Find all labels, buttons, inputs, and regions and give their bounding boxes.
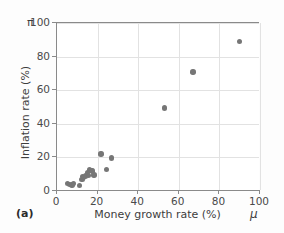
scatter-point (237, 39, 242, 44)
y-axis-tick-label: 40 (14, 117, 50, 129)
scatter-point (98, 151, 103, 156)
gridline-horizontal (57, 23, 259, 24)
plot-area (56, 22, 259, 190)
x-axis-tick (56, 190, 57, 194)
y-axis-tick-label: 60 (14, 83, 50, 95)
gridline-vertical (260, 23, 261, 190)
gridline-horizontal (57, 57, 259, 58)
scatter-point (71, 181, 76, 186)
x-axis-tick-label: 40 (131, 195, 144, 207)
y-axis-tick-label: 0 (14, 184, 50, 196)
scatter-point (190, 69, 195, 74)
y-axis-tick-label: 20 (14, 150, 50, 162)
gridline-vertical (138, 23, 139, 190)
x-axis-tick-label: 100 (249, 195, 269, 207)
gridline-vertical (98, 23, 99, 190)
x-axis-tick (259, 190, 260, 194)
panel-label: (a) (16, 207, 33, 220)
x-axis-line (56, 190, 260, 191)
y-axis-tick-label: 100 (14, 16, 50, 28)
y-axis-tick (52, 190, 56, 191)
x-axis-tick (178, 190, 179, 194)
y-axis-tick-label: 80 (14, 50, 50, 62)
scatter-point (91, 172, 96, 177)
x-axis-tick (218, 190, 219, 194)
x-axis-tick-label: 0 (53, 195, 60, 207)
gridline-horizontal (57, 90, 259, 91)
x-axis-tick-label: 80 (212, 195, 225, 207)
y-axis-tick (52, 22, 56, 23)
gridline-vertical (179, 23, 180, 190)
y-axis-tick (52, 56, 56, 57)
scatter-point (162, 105, 167, 110)
mu-axis-symbol: μ (250, 207, 258, 221)
y-axis-tick (52, 89, 56, 90)
figure-panel-a: π Money growth rate (%) Inflation rate (… (0, 0, 284, 233)
scatter-point (109, 155, 114, 160)
scatter-point (77, 183, 82, 188)
gridline-horizontal (57, 157, 259, 158)
scatter-point (104, 167, 109, 172)
gridline-horizontal (57, 124, 259, 125)
y-axis-tick (52, 123, 56, 124)
x-axis-tick (137, 190, 138, 194)
x-axis-tick (97, 190, 98, 194)
x-axis-label: Money growth rate (%) (56, 208, 259, 221)
x-axis-tick-label: 20 (90, 195, 103, 207)
x-axis-tick-label: 60 (171, 195, 184, 207)
y-axis-tick (52, 156, 56, 157)
gridline-vertical (219, 23, 220, 190)
